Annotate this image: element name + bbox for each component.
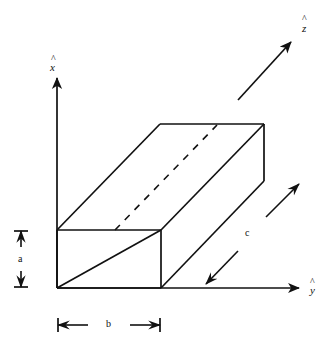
z-axis-hat-accent: ^: [302, 14, 307, 24]
z-axis-label: z: [302, 23, 306, 34]
box-hidden-edge: [115, 125, 217, 230]
z-axis-arrow: [238, 42, 291, 100]
dimension-c-upper-arrow: [266, 184, 299, 217]
dimension-c-lower-arrow: [206, 251, 238, 284]
figure-canvas: x ^ y ^ z ^ a b c: [0, 0, 334, 343]
box-edge-front-face-diagonal: [57, 230, 161, 288]
dimension-b-label: b: [106, 319, 111, 329]
dimension-a-label: a: [18, 254, 22, 264]
y-axis-hat-accent: ^: [310, 277, 315, 287]
diagram-svg: [0, 0, 334, 343]
dimension-c-marks: [206, 184, 299, 284]
x-axis-hat-accent: ^: [51, 54, 56, 64]
dimension-c-label: c: [245, 228, 249, 238]
box-edges: [57, 124, 264, 288]
box-edge-receding-top-right: [161, 124, 264, 230]
box-edge-receding-top-left: [57, 124, 160, 230]
